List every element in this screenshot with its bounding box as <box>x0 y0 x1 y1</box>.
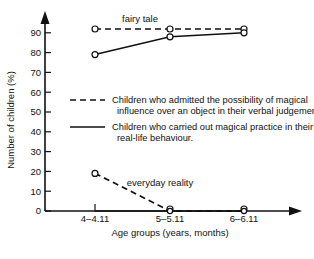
legend-entry-verbal-judgements: Children who admitted the possibility of… <box>70 95 314 115</box>
data-point-marker <box>92 52 98 58</box>
chart-legend: Children who admitted the possibility of… <box>70 95 314 142</box>
data-point-marker <box>92 170 98 176</box>
data-point-marker <box>167 26 173 32</box>
y-tick-label-70: 70 <box>30 67 41 78</box>
annotation-everyday-reality: everyday reality <box>127 177 194 188</box>
series-fairy-tale-behaviour <box>92 30 247 58</box>
x-tick-label-2: 6–6.11 <box>230 213 258 224</box>
data-point-marker <box>167 34 173 40</box>
y-axis-arrow-icon <box>41 11 50 24</box>
x-axis-arrow-icon <box>289 207 302 216</box>
x-tick-label-0: 4–4.11 <box>81 213 109 224</box>
series-everyday-reality-behaviour <box>95 208 247 213</box>
y-tick-label-10: 10 <box>30 186 41 197</box>
legend-entry-real-life-behaviour: Children who carried out magical practic… <box>70 122 313 142</box>
y-tick-label-0: 0 <box>36 205 41 216</box>
y-tick-label-50: 50 <box>30 106 41 117</box>
y-tick-label-80: 80 <box>30 47 41 58</box>
data-point-marker <box>241 208 246 213</box>
y-tick-label-90: 90 <box>30 27 41 38</box>
y-tick-label-20: 20 <box>30 166 41 177</box>
legend-label-verbal-line1: Children who admitted the possibility of… <box>112 95 308 105</box>
magical-thinking-line-chart: 0 10 20 30 40 50 60 70 80 90 4–4.11 5–5.… <box>0 0 314 259</box>
y-tick-label-30: 30 <box>30 146 41 157</box>
data-point-marker <box>167 208 172 213</box>
x-tick-label-1: 5–5.11 <box>156 213 184 224</box>
data-point-marker <box>241 30 247 36</box>
legend-label-verbal-line2: influence over an object in their verbal… <box>117 106 314 116</box>
legend-label-behaviour-line2: real-life behaviour. <box>117 133 193 143</box>
legend-label-behaviour-line1: Children who carried out magical practic… <box>112 122 313 132</box>
data-point-marker <box>92 26 98 32</box>
x-axis-title: Age groups (years, months) <box>111 227 228 238</box>
series-fairy-tale-verbal <box>92 26 247 32</box>
y-tick-label-60: 60 <box>30 87 41 98</box>
annotation-fairy-tale: fairy tale <box>122 13 158 24</box>
y-axis-title: Number of children (%) <box>5 71 16 169</box>
y-axis-ticks: 0 10 20 30 40 50 60 70 80 90 <box>30 27 51 216</box>
y-tick-label-40: 40 <box>30 126 41 137</box>
